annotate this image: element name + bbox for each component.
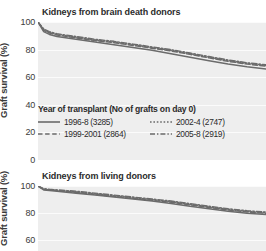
legend-label-2005-8: 2005-8 (2919) (176, 129, 225, 139)
legend-swatch-dotted-icon (150, 118, 172, 126)
legend: Year of transplant (No of grafts on day … (38, 104, 266, 139)
legend-label-1996-8: 1996-8 (3285) (64, 117, 113, 127)
legend-label-2002-4: 2002-4 (2747) (176, 117, 225, 127)
survival-curves-living-donors (38, 186, 266, 251)
legend-item-2005-8[interactable]: 2005-8 (2919) (150, 129, 262, 139)
legend-items: 1996-8 (3285) 2002-4 (2747) 1999-2001 (2… (38, 117, 266, 139)
legend-label-1999-2001: 1999-2001 (2864) (64, 129, 126, 139)
y-tick-40: 40 (25, 100, 35, 110)
survival-curves-brain-death (38, 22, 266, 160)
legend-swatch-solid-icon (38, 118, 60, 126)
y-tick-80: 80 (25, 45, 35, 55)
legend-item-1996-8[interactable]: 1996-8 (3285) (38, 117, 150, 127)
y-tick-80-bottom: 80 (25, 208, 35, 218)
legend-item-1999-2001[interactable]: 1999-2001 (2864) (38, 129, 150, 139)
panel-title-living-donors: Kidneys from living donors (42, 171, 156, 181)
figure-kidney-graft-survival: Graft survival (%) Kidneys from brain de… (0, 0, 266, 251)
legend-swatch-dashdot-icon (150, 130, 172, 138)
panel-title-brain-death: Kidneys from brain death donors (42, 7, 180, 17)
plot-area-brain-death (38, 22, 266, 160)
panel-brain-death-donors: Graft survival (%) Kidneys from brain de… (0, 0, 266, 160)
y-tick-20: 20 (25, 127, 35, 137)
y-tick-60: 60 (25, 72, 35, 82)
legend-swatch-dashed-icon (38, 130, 60, 138)
panel-living-donors: Graft survival (%) Kidneys from living d… (0, 166, 266, 251)
curve-2002-4 (38, 22, 266, 65)
curve-2005-8 (38, 22, 266, 65)
y-tick-100-bottom: 100 (21, 181, 35, 191)
y-tick-100: 100 (21, 17, 35, 27)
curve-1999-2001 (38, 22, 266, 66)
y-ticks-bottom: 100 80 60 (0, 166, 35, 251)
y-tick-0: 0 (30, 155, 35, 165)
plot-area-living-donors (38, 186, 266, 251)
legend-title: Year of transplant (No of grafts on day … (38, 104, 266, 114)
y-ticks-top: 100 80 60 40 20 0 (0, 0, 35, 160)
legend-item-2002-4[interactable]: 2002-4 (2747) (150, 117, 262, 127)
curve-2005-8 (38, 186, 266, 212)
y-tick-60-bottom: 60 (25, 235, 35, 245)
